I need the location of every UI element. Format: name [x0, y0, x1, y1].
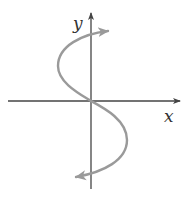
x-axis-label: x	[164, 108, 174, 125]
curve-upper	[58, 31, 108, 101]
curve-lower	[76, 101, 127, 177]
graph-canvas	[0, 0, 193, 205]
y-axis-label: y	[73, 15, 83, 32]
